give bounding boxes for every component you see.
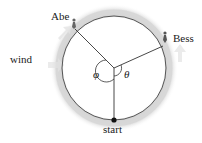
start-point <box>111 117 116 122</box>
bess-label: Bess <box>173 33 194 44</box>
diagram-canvas <box>0 0 202 143</box>
wind-label: wind <box>10 54 32 65</box>
abe-label: Abe <box>51 11 69 22</box>
start-label: start <box>103 124 122 135</box>
circular-track-diagram: Abe Bess wind start φ θ <box>0 0 202 143</box>
phi-label: φ <box>93 69 99 80</box>
theta-label: θ <box>124 69 129 80</box>
